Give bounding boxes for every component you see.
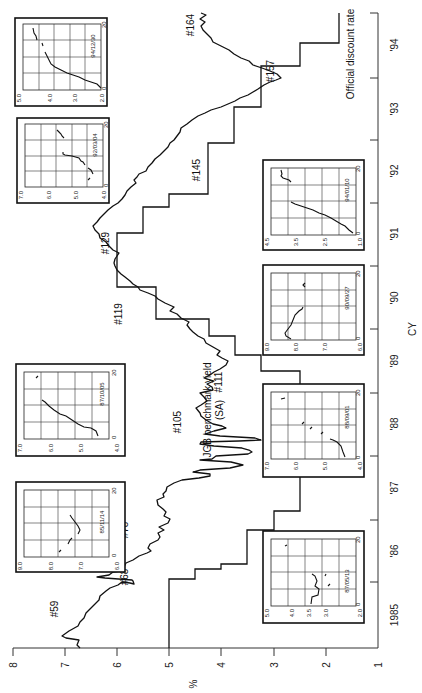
inset-xtick: 20 bbox=[101, 21, 107, 28]
pct-tick-6: 6 bbox=[112, 662, 123, 668]
year-tick-1985: 1985 bbox=[389, 603, 400, 626]
inset-ytick: 3.0 bbox=[323, 608, 329, 617]
inset-ytick: 2.5 bbox=[322, 237, 328, 246]
year-tick-88: '88 bbox=[389, 417, 400, 430]
inset-ytick: 5.0 bbox=[264, 608, 270, 617]
inset-xtick: 20 bbox=[355, 165, 361, 172]
inset-ytick: 6.0 bbox=[293, 461, 299, 470]
inset-ytick: 8.0 bbox=[48, 561, 54, 570]
inset-ytick: 5.0 bbox=[78, 443, 84, 452]
inset-ytick: 3.5 bbox=[306, 608, 312, 617]
annotation-129: #129 bbox=[100, 231, 111, 254]
inset-ytick: 9.0 bbox=[264, 342, 270, 351]
inset-ytick: 3.0 bbox=[72, 93, 78, 102]
inset-ytick: 4.0 bbox=[114, 443, 120, 452]
pct-tick-2: 2 bbox=[321, 662, 332, 668]
annotation-111: #111 bbox=[213, 371, 224, 392]
jgb-yield-label: JGB benchmark yield bbox=[202, 362, 213, 457]
pct-tick-7: 7 bbox=[60, 662, 71, 668]
inset-ytick: 5.0 bbox=[16, 93, 22, 102]
rotated-line-chart: 8 7 6 5 4 3 2 1 % 1985 '86 '87 '88 '89 '… bbox=[0, 0, 422, 693]
inset-ytick: 4.0 bbox=[357, 461, 363, 470]
inset-ytick: 9.0 bbox=[17, 561, 23, 570]
inset-ytick: 6.0 bbox=[357, 342, 363, 351]
annotation-157: #157 bbox=[265, 59, 276, 82]
inset-ytick: 7.0 bbox=[264, 461, 270, 470]
inset-xtick: 20 bbox=[355, 270, 361, 277]
inset-ytick: 1.0 bbox=[357, 237, 363, 246]
year-axis: 1985 '86 '87 '88 '89 '90 '91 '92 '93 '94… bbox=[370, 13, 418, 648]
inset-ytick: 5.0 bbox=[73, 190, 79, 199]
inset-85-11-14: 85/11/14 9.0 8.0 7.0 6.0 0 20 bbox=[16, 482, 125, 572]
inset-ytick: 2.0 bbox=[99, 93, 105, 102]
year-tick-89: '89 bbox=[389, 354, 400, 367]
annotation-164: #164 bbox=[185, 13, 196, 36]
inset-date-label: 94/01/10 bbox=[344, 178, 350, 202]
inset-ytick: 5.0 bbox=[322, 461, 328, 470]
inset-87-10-05: 87/10/05 7.0 6.0 5.0 4.0 0 20 bbox=[16, 364, 125, 456]
inset-ytick: 4.5 bbox=[264, 237, 270, 246]
inset-ytick: 3.5 bbox=[293, 237, 299, 246]
pct-axis: 8 7 6 5 4 3 2 1 % bbox=[8, 648, 384, 688]
inset-xtick: 20 bbox=[355, 389, 361, 396]
pct-tick-5: 5 bbox=[164, 662, 175, 668]
inset-date-label: 90/09/27 bbox=[344, 286, 350, 310]
inset-date-label: 87/05/13 bbox=[344, 569, 350, 593]
inset-xtick: 20 bbox=[111, 369, 117, 376]
inset-ytick: 6.0 bbox=[46, 190, 52, 199]
inset-ytick: 7.0 bbox=[78, 561, 84, 570]
inset-ytick: 2.0 bbox=[357, 608, 363, 617]
inset-ytick: 4.0 bbox=[289, 608, 295, 617]
year-tick-94: '94 bbox=[389, 38, 400, 51]
year-tick-91: '91 bbox=[389, 227, 400, 240]
y-axis-title: % bbox=[188, 679, 199, 688]
inset-90-09-27: 90/09/27 9.0 8.0 7.0 6.0 0 20 bbox=[263, 265, 364, 355]
inset-ytick: 7.0 bbox=[322, 342, 328, 351]
inset-xtick: 20 bbox=[103, 121, 109, 128]
inset-date-label: 87/10/05 bbox=[99, 382, 105, 406]
annotation-105: #105 bbox=[172, 410, 183, 433]
inset-94-01-10: 94/01/10 4.5 3.5 2.5 1.0 0 20 bbox=[263, 160, 364, 250]
annotation-119: #119 bbox=[113, 303, 124, 325]
inset-92-03-04: 92/03/04 7.0 6.0 5.0 4.0 0 20 bbox=[17, 118, 109, 203]
inset-ytick: 6.0 bbox=[48, 443, 54, 452]
pct-tick-4: 4 bbox=[216, 662, 227, 668]
inset-date-label: 94/12/30 bbox=[90, 34, 96, 58]
annotation-59: #59 bbox=[49, 600, 60, 617]
inset-ytick: 4.0 bbox=[47, 93, 53, 102]
inset-ytick: 4.0 bbox=[101, 190, 107, 199]
year-tick-87: '87 bbox=[389, 481, 400, 494]
pct-tick-8: 8 bbox=[8, 662, 19, 668]
inset-date-label: 92/03/04 bbox=[92, 133, 98, 157]
inset-87-05-13: 87/05/13 5.0 4.0 3.5 3.0 2.0 0 20 bbox=[263, 531, 364, 623]
year-tick-90: '90 bbox=[389, 291, 400, 304]
inset-date-label: 85/11/14 bbox=[99, 510, 105, 534]
annotation-145: #145 bbox=[191, 158, 202, 181]
pct-tick-1: 1 bbox=[373, 662, 384, 668]
inset-ytick: 8.0 bbox=[293, 342, 299, 351]
inset-xtick: 20 bbox=[355, 536, 361, 543]
inset-94-12-30: 94/12/30 5.0 4.0 3.0 2.0 0 20 bbox=[15, 18, 107, 106]
jgb-yield-sublabel: (SA) bbox=[214, 400, 225, 420]
inset-ytick: 7.0 bbox=[17, 443, 23, 452]
year-tick-93: '93 bbox=[389, 102, 400, 115]
inset-ytick: 6.0 bbox=[114, 561, 120, 570]
year-tick-86: '86 bbox=[389, 544, 400, 557]
official-discount-rate-label: Official discount rate bbox=[345, 8, 356, 99]
pct-tick-3: 3 bbox=[269, 662, 280, 668]
inset-date-label: 88/09/01 bbox=[344, 405, 350, 429]
year-tick-92: '92 bbox=[389, 164, 400, 177]
inset-xtick: 20 bbox=[111, 487, 117, 494]
inset-ytick: 7.0 bbox=[18, 190, 24, 199]
x-axis-title: CY bbox=[407, 322, 418, 336]
inset-88-09-01: 88/09/01 7.0 6.0 5.0 4.0 0 20 bbox=[263, 384, 364, 477]
